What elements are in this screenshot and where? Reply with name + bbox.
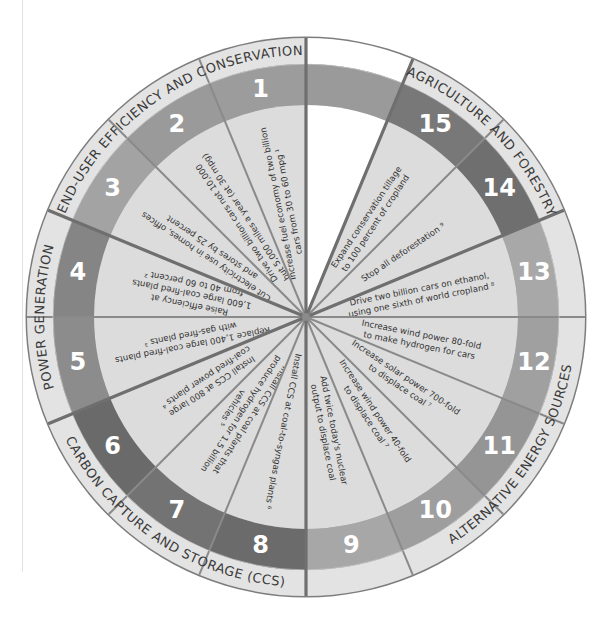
wedge-number: 11	[483, 432, 516, 460]
wedge-number: 15	[418, 110, 451, 138]
wedge-number: 2	[168, 110, 185, 138]
wedge-number: 5	[70, 348, 87, 376]
wedge-number: 6	[104, 432, 121, 460]
wedge-number: 14	[483, 174, 516, 202]
wedge-number: 12	[517, 348, 550, 376]
wedge-number: 4	[70, 258, 87, 286]
wedge-number: 8	[252, 531, 269, 559]
wedge-number: 9	[343, 531, 360, 559]
wedge-number: 1	[252, 75, 269, 103]
wedge-number: 13	[517, 258, 550, 286]
stabilization-wheel: 1Increase fuel economy of two billioncar…	[0, 0, 603, 629]
wedge-number: 7	[168, 496, 185, 524]
wedge-number: 3	[104, 174, 121, 202]
center-hub	[302, 313, 310, 321]
wedge-number: 10	[418, 496, 451, 524]
